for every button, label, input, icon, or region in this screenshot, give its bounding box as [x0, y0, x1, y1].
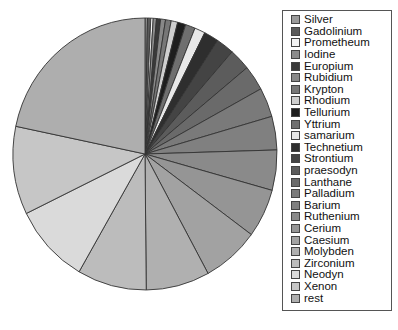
- legend-item: Krypton: [291, 84, 391, 96]
- legend-label: Palladium: [304, 188, 355, 199]
- legend-swatch: [291, 282, 300, 291]
- legend-swatch: [291, 38, 300, 47]
- legend-swatch: [291, 224, 300, 233]
- legend-item: Rubidium: [291, 72, 391, 84]
- legend-label: Europium: [304, 61, 353, 72]
- legend-swatch: [291, 201, 300, 210]
- pie-chart: [0, 0, 282, 330]
- legend-swatch: [291, 85, 300, 94]
- legend-label: Prometheum: [304, 37, 370, 48]
- legend-item: Neodyn: [291, 269, 391, 281]
- legend-label: Xenon: [304, 281, 337, 292]
- legend-swatch: [291, 108, 300, 117]
- legend-item: Lanthane: [291, 176, 391, 188]
- legend-swatch: [291, 154, 300, 163]
- legend-label: Gadolinium: [304, 26, 362, 37]
- legend-label: Iodine: [304, 49, 335, 60]
- legend-item: Iodine: [291, 49, 391, 61]
- legend-swatch: [291, 178, 300, 187]
- legend-item: praesodyn: [291, 165, 391, 177]
- legend-label: Molybden: [304, 246, 354, 257]
- legend-swatch: [291, 236, 300, 245]
- legend-item: Gadolinium: [291, 26, 391, 38]
- legend-swatch: [291, 189, 300, 198]
- legend-label: samarium: [304, 130, 354, 141]
- legend-label: Cerium: [304, 223, 341, 234]
- legend-swatch: [291, 294, 300, 303]
- legend-item: Prometheum: [291, 37, 391, 49]
- legend-label: Caesium: [304, 235, 349, 246]
- legend-label: rest: [304, 293, 323, 304]
- legend-item: Europium: [291, 60, 391, 72]
- legend-swatch: [291, 131, 300, 140]
- legend-label: Silver: [304, 14, 333, 25]
- legend-label: Zirconium: [304, 258, 354, 269]
- legend-label: Neodyn: [304, 269, 344, 280]
- legend-item: Tellurium: [291, 107, 391, 119]
- legend-label: praesodyn: [304, 165, 358, 176]
- legend-label: Barium: [304, 200, 340, 211]
- legend-item: Yttrium: [291, 118, 391, 130]
- legend-label: Tellurium: [304, 107, 350, 118]
- legend-swatch: [291, 270, 300, 279]
- legend-item: Barium: [291, 200, 391, 212]
- legend-item: Silver: [291, 14, 391, 26]
- chart-legend: Silver Gadolinium Prometheum Iodine Euro…: [282, 10, 392, 311]
- legend-swatch: [291, 166, 300, 175]
- legend-item: Ruthenium: [291, 211, 391, 223]
- legend-swatch: [291, 15, 300, 24]
- legend-item: Cerium: [291, 223, 391, 235]
- legend-item: rest: [291, 292, 391, 304]
- legend-label: Technetium: [304, 142, 363, 153]
- legend-swatch: [291, 212, 300, 221]
- legend-item: Rhodium: [291, 95, 391, 107]
- legend-label: Strontium: [304, 153, 353, 164]
- legend-item: Zirconium: [291, 257, 391, 269]
- legend-swatch: [291, 143, 300, 152]
- legend-label: Krypton: [304, 84, 344, 95]
- legend-swatch: [291, 50, 300, 59]
- legend-swatch: [291, 96, 300, 105]
- legend-label: Rubidium: [304, 72, 353, 83]
- legend-item: Palladium: [291, 188, 391, 200]
- legend-label: Ruthenium: [304, 211, 360, 222]
- legend-swatch: [291, 73, 300, 82]
- legend-item: Technetium: [291, 142, 391, 154]
- legend-item: Strontium: [291, 153, 391, 165]
- legend-swatch: [291, 247, 300, 256]
- legend-label: Rhodium: [304, 95, 350, 106]
- legend-item: Caesium: [291, 234, 391, 246]
- legend-label: Lanthane: [304, 177, 352, 188]
- legend-swatch: [291, 27, 300, 36]
- legend-item: Xenon: [291, 281, 391, 293]
- legend-item: Molybden: [291, 246, 391, 258]
- legend-item: samarium: [291, 130, 391, 142]
- legend-label: Yttrium: [304, 119, 340, 130]
- legend-swatch: [291, 62, 300, 71]
- legend-swatch: [291, 120, 300, 129]
- legend-swatch: [291, 259, 300, 268]
